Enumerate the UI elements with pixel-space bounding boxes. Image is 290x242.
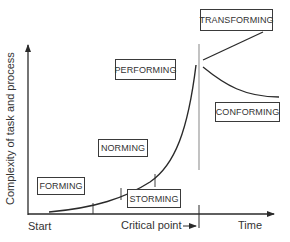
- x-axis-start-label: Start: [28, 220, 51, 232]
- x-axis-time-label: Time: [238, 219, 262, 231]
- stage-forming: FORMING: [37, 177, 85, 195]
- stage-conforming: CONFORMING: [215, 102, 280, 122]
- transforming-branch: [203, 32, 263, 60]
- y-axis-label: Complexity of task and process: [4, 52, 16, 205]
- stage-transforming: TRANSFORMING: [200, 9, 273, 31]
- stage-storming: STORMING: [127, 189, 181, 208]
- stage-performing: PERFORMING: [115, 59, 176, 80]
- conforming-branch: [203, 67, 279, 97]
- x-axis-critical-point-label: Critical point: [121, 219, 182, 231]
- stage-norming: NORMING: [98, 139, 148, 157]
